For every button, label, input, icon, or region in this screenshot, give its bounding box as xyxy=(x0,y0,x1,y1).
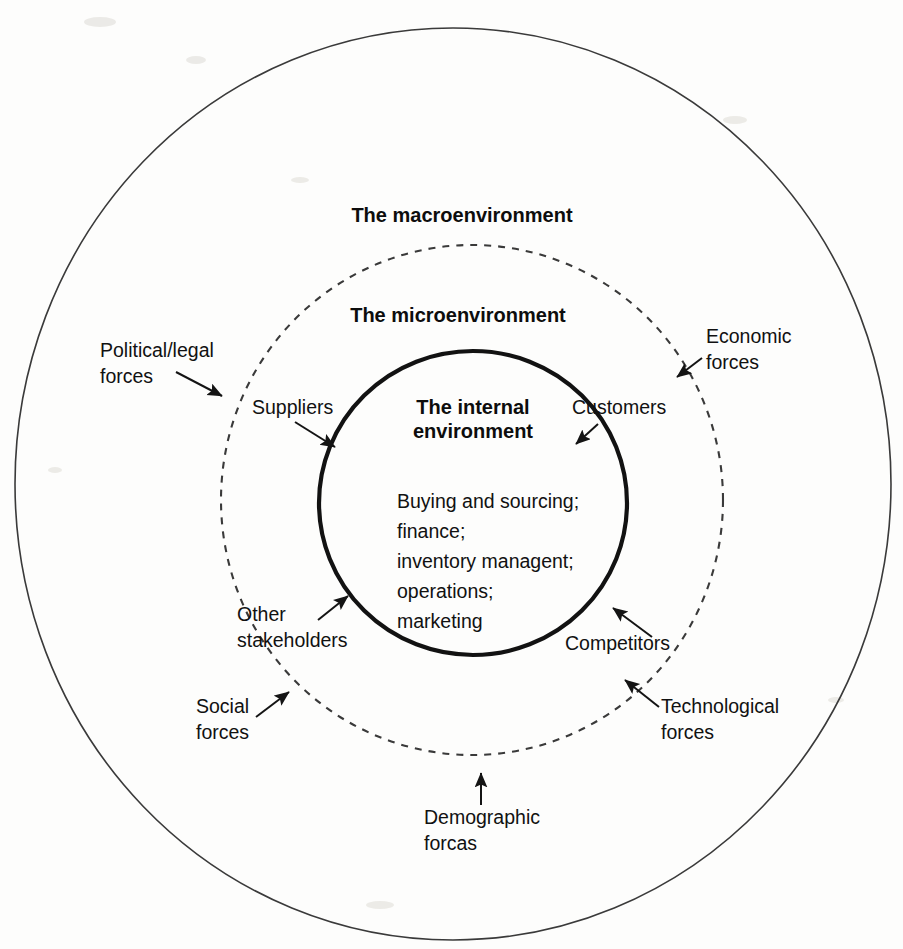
demographic-forces-callout: Demographicforcas xyxy=(424,773,540,854)
internal-environment-label-line1: The internal xyxy=(416,396,529,418)
competitors-label: Competitors xyxy=(565,632,670,654)
political-legal-forces-label: Political/legal xyxy=(100,339,214,361)
customers-arrow-icon xyxy=(576,424,598,444)
suppliers-arrow-icon xyxy=(295,422,335,447)
internal-environment-items: Buying and sourcing;finance;inventory ma… xyxy=(397,490,579,632)
microenvironment-label: The microenvironment xyxy=(350,304,566,326)
internal-environment-item: inventory managent; xyxy=(397,550,574,572)
political-legal-forces-callout: Political/legalforces xyxy=(100,339,222,396)
suppliers-callout: Suppliers xyxy=(252,396,335,447)
internal-environment-item: marketing xyxy=(397,610,483,632)
other-stakeholders-label: Other xyxy=(237,603,286,625)
internal-environment-label: The internal environment xyxy=(413,396,533,442)
economic-forces-label: Economic xyxy=(706,325,792,347)
technological-forces-arrow-icon xyxy=(625,680,659,707)
social-forces-label: Social xyxy=(196,695,249,717)
customers-label: Customers xyxy=(572,396,667,418)
scan-noise xyxy=(48,17,844,909)
other-stakeholders-arrow-icon xyxy=(318,596,348,620)
other-stakeholders-label: stakeholders xyxy=(237,629,348,651)
diagram-canvas: The macroenvironment The microenvironmen… xyxy=(0,0,903,949)
economic-forces-label: forces xyxy=(706,351,759,373)
marketing-environment-diagram: The macroenvironment The microenvironmen… xyxy=(0,0,903,949)
social-forces-label: forces xyxy=(196,721,249,743)
political-legal-forces-arrow-icon xyxy=(176,372,222,396)
competitors-callout: Competitors xyxy=(565,608,670,654)
demographic-forces-label: forcas xyxy=(424,832,477,854)
suppliers-label: Suppliers xyxy=(252,396,334,418)
technological-forces-callout: Technologicalforces xyxy=(625,680,779,743)
customers-callout: Customers xyxy=(572,396,667,444)
technological-forces-label: Technological xyxy=(661,695,779,717)
macroenvironment-label: The macroenvironment xyxy=(351,204,573,226)
technological-forces-label: forces xyxy=(661,721,714,743)
internal-environment-item: finance; xyxy=(397,520,465,542)
internal-environment-label-line2: environment xyxy=(413,420,533,442)
demographic-forces-label: Demographic xyxy=(424,806,540,828)
internal-environment-item: Buying and sourcing; xyxy=(397,490,579,512)
other-stakeholders-callout: Otherstakeholders xyxy=(237,596,348,651)
economic-forces-callout: Economicforces xyxy=(677,325,792,377)
macroenvironment-ring xyxy=(15,28,891,940)
internal-environment-item: operations; xyxy=(397,580,493,602)
social-forces-callout: Socialforces xyxy=(196,692,289,743)
social-forces-arrow-icon xyxy=(256,692,289,717)
political-legal-forces-label: forces xyxy=(100,365,153,387)
